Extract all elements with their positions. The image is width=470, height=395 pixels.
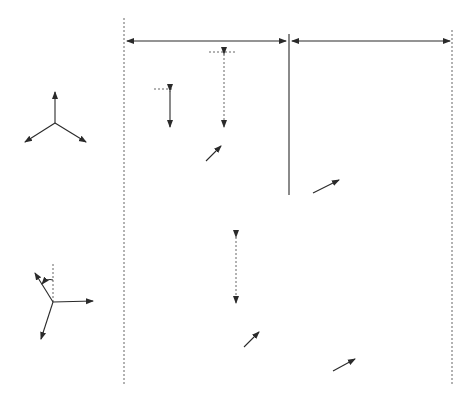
phasor-3-arrow [25,123,55,142]
top-phasor-diagram [25,92,86,142]
conductors-pointer-arrow [244,332,259,347]
phasor-3-arrow [41,302,53,339]
top-annotations [0,0,339,193]
bottom-annotations [0,0,355,371]
angle-arc [42,280,53,285]
conductors-pointer-arrow [206,146,221,161]
mmf-pointer-arrow [333,359,355,371]
mmf-distribution-diagram [0,0,470,395]
phasor-1-arrow [35,273,53,302]
bottom-phasor-diagram [35,263,93,339]
phasor-2-arrow [55,123,86,142]
phasor-2-arrow [53,301,93,302]
mmf-pointer-arrow [313,180,339,193]
